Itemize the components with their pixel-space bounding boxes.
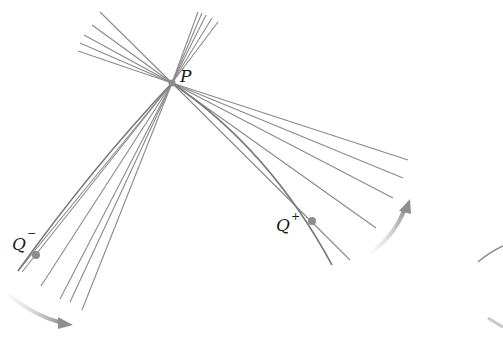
- curve-fragment-right-lower: [488, 318, 503, 327]
- point-Q-minus: [32, 251, 40, 259]
- arrow-right-icon: [372, 199, 411, 252]
- point-P: [169, 80, 176, 87]
- lower-left-lines: [18, 83, 172, 310]
- arrow-left-icon: [10, 296, 73, 329]
- label-Q-minus: Q: [12, 234, 26, 254]
- label-Q-minus-sup: −: [27, 227, 36, 240]
- upper-right-lines: [172, 12, 218, 83]
- label-P: P: [179, 66, 192, 86]
- secant-lines-diagram: P Q − Q +: [0, 0, 503, 349]
- curve: [172, 83, 332, 265]
- curve-fragment-right: [478, 246, 503, 262]
- upper-left-lines: [78, 12, 172, 83]
- label-Q-plus-sup: +: [291, 210, 300, 223]
- point-Q-plus: [308, 217, 316, 225]
- label-Q-plus: Q: [276, 215, 290, 235]
